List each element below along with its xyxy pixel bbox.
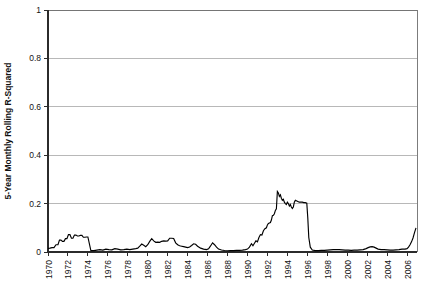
x-tick-label-1976: 1976 xyxy=(103,260,113,279)
x-tick-label-1986: 1986 xyxy=(203,260,213,279)
x-tick-label-2004: 2004 xyxy=(383,260,393,279)
x-tick-label-1992: 1992 xyxy=(263,260,273,279)
x-tick-label-1994: 1994 xyxy=(283,260,293,279)
x-tick-label-1974: 1974 xyxy=(83,260,93,279)
x-tick-label-1978: 1978 xyxy=(123,260,133,279)
x-tick-label-2002: 2002 xyxy=(363,260,373,279)
y-tick-label-0.6: 0.6 xyxy=(29,102,41,112)
y-tick-label-0.4: 0.4 xyxy=(29,150,41,160)
y-axis-title-text: 5-Year Monthly Rolling R-Squared xyxy=(3,63,13,200)
x-axis-ticks: 1970197219741976197819801982198419861988… xyxy=(44,252,413,279)
y-tick-label-0.8: 0.8 xyxy=(29,53,41,63)
x-tick-label-2006: 2006 xyxy=(403,260,413,279)
x-tick-label-1982: 1982 xyxy=(163,260,173,279)
rolling-r-squared-line-chart: 00.20.40.60.81 1970197219741976197819801… xyxy=(0,0,426,292)
y-tick-label-0: 0 xyxy=(36,247,41,257)
plot-frame xyxy=(48,10,417,252)
y-axis-ticks: 00.20.40.60.81 xyxy=(29,5,48,257)
x-tick-label-1988: 1988 xyxy=(223,260,233,279)
y-tick-label-0.2: 0.2 xyxy=(29,199,41,209)
x-tick-label-1970: 1970 xyxy=(44,260,54,279)
x-tick-label-1998: 1998 xyxy=(323,260,333,279)
x-tick-label-1984: 1984 xyxy=(183,260,193,279)
series-line-0 xyxy=(48,192,416,251)
x-tick-label-1996: 1996 xyxy=(303,260,313,279)
grid-lines xyxy=(48,10,417,204)
x-tick-label-1980: 1980 xyxy=(143,260,153,279)
x-tick-label-1990: 1990 xyxy=(243,260,253,279)
data-series-group xyxy=(48,192,416,251)
x-tick-label-2000: 2000 xyxy=(343,260,353,279)
y-axis-title: 5-Year Monthly Rolling R-Squared xyxy=(3,63,13,200)
y-tick-label-1: 1 xyxy=(36,5,41,15)
chart-container: 00.20.40.60.81 1970197219741976197819801… xyxy=(0,0,426,292)
x-tick-label-1972: 1972 xyxy=(63,260,73,279)
